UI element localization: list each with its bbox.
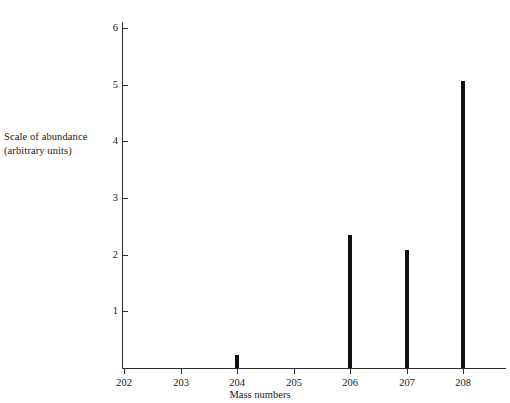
y-tick-mark-1	[123, 311, 128, 312]
x-tick-mark-208	[463, 369, 464, 374]
x-tick-label-205: 205	[274, 377, 314, 389]
y-tick-label-3: 3	[102, 193, 118, 204]
y-tick-label-5: 5	[102, 80, 118, 91]
mass-spectrum-chart: Scale of abundance (arbitrary units) 1 2…	[0, 0, 510, 403]
y-tick-label-4: 4	[102, 136, 118, 147]
x-tick-mark-207	[407, 369, 408, 374]
y-axis-label-line-2: (arbitrary units)	[4, 144, 108, 158]
x-tick-mark-203	[181, 369, 182, 374]
x-tick-label-204: 204	[217, 377, 257, 389]
y-axis-label-line-1: Scale of abundance	[4, 131, 87, 142]
x-tick-label-202: 202	[104, 377, 144, 389]
y-axis-line	[122, 22, 123, 369]
x-tick-mark-204	[237, 369, 238, 374]
y-axis-label: Scale of abundance (arbitrary units)	[4, 130, 108, 158]
x-tick-mark-205	[294, 369, 295, 374]
x-tick-mark-202	[124, 369, 125, 374]
y-tick-label-1: 1	[102, 306, 118, 317]
x-tick-label-208: 208	[443, 377, 483, 389]
y-tick-mark-2	[123, 255, 128, 256]
y-tick-mark-5	[123, 85, 128, 86]
x-tick-mark-206	[350, 369, 351, 374]
x-tick-label-206: 206	[330, 377, 370, 389]
bar-206	[348, 235, 352, 368]
bar-204	[235, 355, 239, 368]
y-tick-mark-3	[123, 198, 128, 199]
bar-207	[405, 250, 409, 368]
y-tick-label-2: 2	[102, 250, 118, 261]
y-tick-label-6: 6	[102, 23, 118, 34]
y-tick-mark-6	[123, 28, 128, 29]
y-tick-mark-4	[123, 141, 128, 142]
x-tick-label-203: 203	[161, 377, 201, 389]
x-axis-line	[122, 368, 506, 369]
bar-208	[461, 81, 465, 368]
x-tick-label-207: 207	[387, 377, 427, 389]
x-axis-title: Mass numbers	[180, 389, 340, 401]
